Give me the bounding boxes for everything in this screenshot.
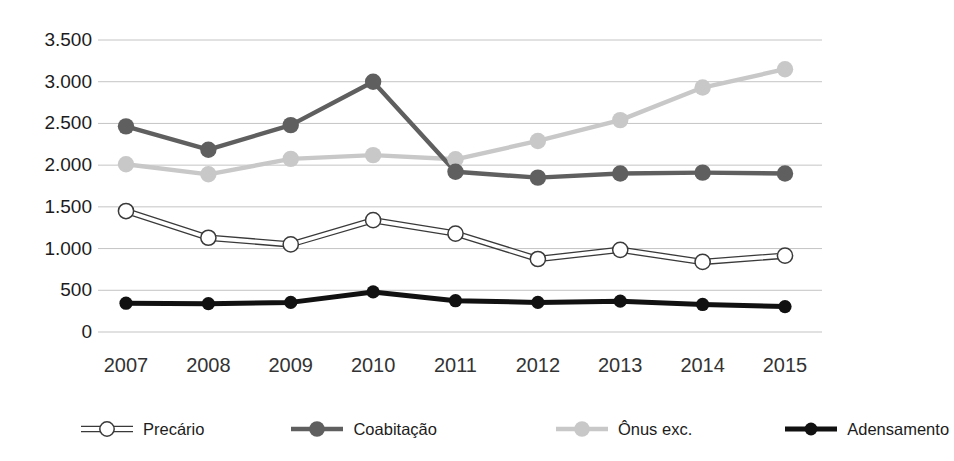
data-point-marker	[777, 165, 793, 181]
x-axis-tick-label: 2012	[493, 355, 583, 375]
data-point-marker	[530, 169, 546, 185]
legend-item[interactable]: Adensamento	[784, 419, 949, 439]
x-axis-tick-label: 2009	[246, 355, 336, 375]
y-axis-tick-label: 0	[0, 322, 92, 341]
data-point-marker	[778, 300, 791, 313]
y-axis-tick-label: 1.000	[0, 239, 92, 258]
y-axis-tick-label: 2.000	[0, 155, 92, 174]
data-point-marker	[200, 166, 216, 182]
data-point-marker	[118, 156, 134, 172]
legend-item[interactable]: Ônus exc.	[555, 419, 692, 439]
data-point-marker	[777, 248, 792, 263]
x-axis-tick-label: 2013	[575, 355, 665, 375]
x-axis-tick-label: 2008	[163, 355, 253, 375]
data-point-marker	[696, 298, 709, 311]
data-point-marker	[283, 117, 299, 133]
light-gray-circle-marker-icon	[555, 419, 609, 439]
data-point-marker	[612, 112, 628, 128]
open-circle-marker-icon	[80, 419, 134, 439]
data-point-marker	[449, 294, 462, 307]
legend-item[interactable]: Precário	[80, 419, 204, 439]
data-point-marker	[118, 118, 134, 134]
data-point-marker	[283, 237, 298, 252]
black-circle-marker-icon	[784, 419, 838, 439]
data-point-marker	[612, 165, 628, 181]
data-point-marker	[448, 226, 463, 241]
legend-item-label: Adensamento	[847, 420, 949, 439]
data-point-marker	[614, 295, 627, 308]
data-point-marker	[447, 164, 463, 180]
data-point-marker	[694, 79, 710, 95]
chart-legend: PrecárioCoabitaçãoÔnus exc.Adensamento	[80, 414, 954, 444]
data-point-marker	[284, 296, 297, 309]
data-point-marker	[777, 61, 793, 77]
y-axis-tick-label: 1.500	[0, 197, 92, 216]
data-point-marker	[530, 133, 546, 149]
x-axis-tick-label: 2007	[81, 355, 171, 375]
y-axis-tick-label: 500	[0, 280, 92, 299]
series-marker-group	[118, 61, 793, 313]
dark-gray-circle-marker-icon	[290, 419, 344, 439]
data-point-marker	[365, 147, 381, 163]
x-axis-tick-label: 2014	[658, 355, 748, 375]
data-point-marker	[283, 151, 299, 167]
data-point-marker	[119, 297, 132, 310]
x-axis-tick-label: 2010	[328, 355, 418, 375]
series-line-group	[126, 69, 785, 306]
data-point-marker	[118, 203, 133, 218]
legend-item-label: Coabitação	[353, 420, 436, 439]
data-point-marker	[531, 296, 544, 309]
legend-item-label: Precário	[143, 420, 204, 439]
y-axis-tick-label: 3.000	[0, 72, 92, 91]
legend-item[interactable]: Coabitação	[290, 419, 436, 439]
data-point-marker	[367, 285, 380, 298]
legend-item-label: Ônus exc.	[618, 420, 692, 439]
y-axis-tick-label: 2.500	[0, 113, 92, 132]
data-point-marker	[695, 254, 710, 269]
y-axis-tick-label: 3.500	[0, 30, 92, 49]
data-point-marker	[202, 297, 215, 310]
data-point-marker	[365, 74, 381, 90]
x-axis-tick-label: 2015	[740, 355, 830, 375]
data-point-marker	[530, 251, 545, 266]
data-point-marker	[694, 164, 710, 180]
data-point-marker	[201, 230, 216, 245]
data-point-marker	[366, 213, 381, 228]
x-axis-tick-label: 2011	[411, 355, 501, 375]
data-point-marker	[613, 242, 628, 257]
data-point-marker	[200, 142, 216, 158]
